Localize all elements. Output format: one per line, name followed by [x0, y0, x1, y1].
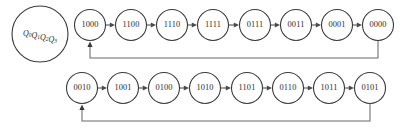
arrow-head-icon [79, 105, 84, 111]
arrow-head-icon [102, 85, 107, 90]
state-node-label: 0011 [288, 20, 305, 29]
state-node-label: 0111 [247, 20, 264, 29]
state-node-label: 0110 [280, 83, 297, 92]
state-node: 0010 [67, 73, 98, 104]
state-node: 1110 [157, 10, 188, 41]
arrow-head-icon [87, 42, 92, 48]
feedback-edge [90, 41, 378, 59]
state-node: 0101 [355, 73, 386, 104]
state-node: 0000 [363, 10, 394, 41]
state-node-label: 1010 [196, 83, 213, 92]
state-node-label: 0100 [155, 83, 172, 92]
state-node-label: 0001 [328, 20, 345, 29]
state-diagram-container: Q0Q1Q2Q310001100111011110111001100010000… [0, 0, 406, 134]
state-node: 1111 [198, 10, 229, 41]
state-node-label: 1100 [123, 20, 140, 29]
arrow-head-icon [357, 22, 362, 27]
state-node: 1101 [232, 73, 263, 104]
arrow-head-icon [184, 85, 189, 90]
arrow-head-icon [267, 85, 272, 90]
state-node: 0100 [149, 73, 180, 104]
state-node-label: 1011 [321, 83, 338, 92]
arrow-head-icon [316, 22, 321, 27]
register-node: Q0Q1Q2Q3 [12, 6, 68, 62]
arrow-head-icon [275, 22, 280, 27]
state-node: 1001 [108, 73, 139, 104]
state-node: 1000 [75, 10, 106, 41]
top-row: 10001100111011110111001100010000 [75, 10, 394, 59]
state-node: 1011 [314, 73, 345, 104]
state-node-label: 1111 [205, 20, 221, 29]
arrow-head-icon [192, 22, 197, 27]
arrow-head-icon [234, 22, 239, 27]
arrow-head-icon [226, 85, 231, 90]
state-node: 1100 [116, 10, 147, 41]
arrow-head-icon [349, 85, 354, 90]
state-node: 0011 [281, 10, 312, 41]
state-node: 0001 [322, 10, 353, 41]
state-node: 1010 [190, 73, 221, 104]
state-node-label: 0101 [361, 83, 378, 92]
state-node-label: 1001 [114, 83, 131, 92]
arrow-head-icon [110, 22, 115, 27]
state-node-label: 1000 [81, 20, 98, 29]
state-diagram-svg: Q0Q1Q2Q310001100111011110111001100010000… [0, 0, 406, 134]
state-node-label: 0000 [369, 20, 386, 29]
state-node-label: 0010 [73, 83, 90, 92]
arrow-head-icon [308, 85, 313, 90]
arrow-head-icon [151, 22, 156, 27]
bottom-row: 00101001010010101101011010110101 [67, 73, 386, 122]
state-node-label: 1101 [239, 83, 256, 92]
state-node-label: 1110 [164, 20, 181, 29]
state-node: 0111 [240, 10, 271, 41]
arrow-head-icon [143, 85, 148, 90]
state-node: 0110 [273, 73, 304, 104]
feedback-edge [82, 104, 370, 122]
